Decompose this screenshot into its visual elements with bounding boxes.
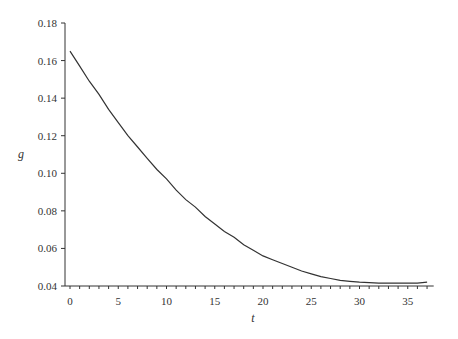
y-tick-label: 0.04	[38, 280, 58, 292]
x-tick-label: 10	[161, 295, 173, 307]
x-tick-label: 15	[209, 295, 221, 307]
x-axis-title: t	[251, 311, 255, 325]
y-tick-label: 0.08	[38, 205, 58, 217]
y-axis-title: g	[18, 147, 24, 161]
line-chart: 0.040.060.080.100.120.140.160.18 0510152…	[0, 0, 458, 339]
y-tick-label: 0.18	[38, 17, 58, 29]
x-tick-label: 30	[354, 295, 366, 307]
x-tick-label: 0	[67, 295, 73, 307]
y-tick-label: 0.14	[38, 92, 58, 104]
y-tick-label: 0.16	[38, 55, 58, 67]
x-tick-label: 35	[402, 295, 414, 307]
x-tick-label: 20	[258, 295, 270, 307]
x-tick-label: 5	[116, 295, 122, 307]
y-tick-label: 0.12	[38, 130, 57, 142]
series-line-g	[70, 51, 427, 283]
x-axis: 05101520253035	[65, 286, 434, 307]
y-tick-label: 0.10	[38, 167, 58, 179]
y-tick-label: 0.06	[38, 242, 58, 254]
y-axis: 0.040.060.080.100.120.140.160.18	[38, 17, 65, 292]
x-tick-label: 25	[306, 295, 318, 307]
